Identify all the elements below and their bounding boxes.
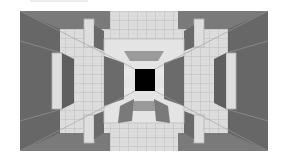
center-black-square <box>135 69 155 91</box>
tunnel-illustration <box>20 11 268 151</box>
top-divider-line <box>30 0 88 2</box>
tunnel-render-image <box>20 11 268 151</box>
